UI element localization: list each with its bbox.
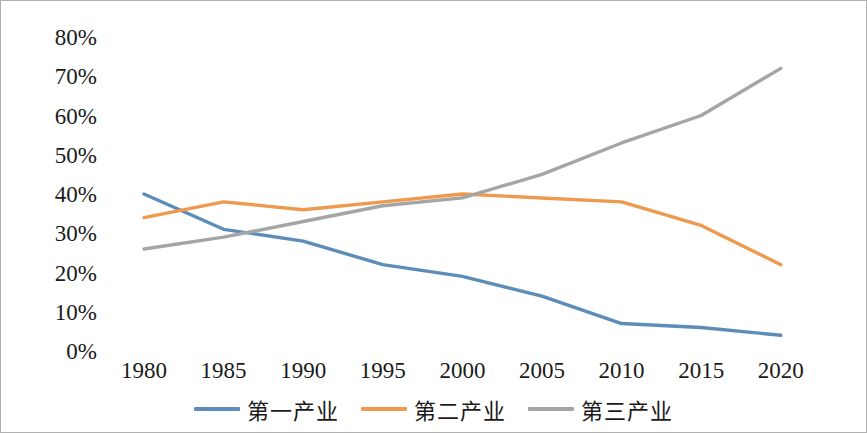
legend-label: 第三产业: [581, 393, 673, 425]
y-axis-tick-label: 70%: [27, 65, 97, 88]
y-axis-tick-label: 30%: [27, 222, 97, 245]
legend-item-2[interactable]: 第二产业: [361, 393, 506, 425]
chart-legend: 第一产业第二产业第三产业: [1, 393, 866, 425]
y-axis-tick-label: 50%: [27, 143, 97, 166]
y-axis-tick-label: 20%: [27, 261, 97, 284]
series-line-2: [144, 194, 781, 265]
chart-container: 80%70%60%50%40%30%20%10%0% 1980198519901…: [0, 0, 867, 433]
x-axis-tick-label: 1990: [280, 359, 326, 382]
legend-line-swatch-icon: [528, 407, 574, 411]
y-axis-tick-label: 10%: [27, 300, 97, 323]
y-axis-tick-label: 60%: [27, 104, 97, 127]
x-axis-tick-label: 1985: [201, 359, 247, 382]
x-axis-tick-label: 2010: [599, 359, 645, 382]
legend-item-1[interactable]: 第一产业: [194, 393, 339, 425]
x-axis-tick-label: 2005: [519, 359, 565, 382]
legend-label: 第一产业: [247, 393, 339, 425]
series-line-1: [144, 194, 781, 335]
legend-item-3[interactable]: 第三产业: [528, 393, 673, 425]
y-axis-tick-label: 40%: [27, 183, 97, 206]
legend-line-swatch-icon: [194, 407, 240, 411]
y-axis-tick-label: 80%: [27, 26, 97, 49]
y-axis-tick-label: 0%: [27, 340, 97, 363]
x-axis-tick-label: 2015: [678, 359, 724, 382]
x-axis-tick-label: 2020: [758, 359, 804, 382]
x-axis-tick-label: 1995: [360, 359, 406, 382]
legend-label: 第二产业: [414, 393, 506, 425]
x-axis-tick-label: 2000: [439, 359, 485, 382]
legend-line-swatch-icon: [361, 407, 407, 411]
x-axis-tick-label: 1980: [121, 359, 167, 382]
